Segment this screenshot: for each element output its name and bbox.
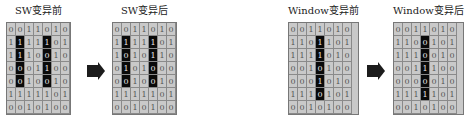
grid-cell: 1 — [7, 36, 16, 49]
grid-cell: 1 — [25, 49, 34, 62]
grid-cell: 1 — [298, 36, 307, 49]
grid-cell: 0 — [167, 62, 176, 75]
grid-cell: 1 — [131, 23, 140, 36]
grid-cell: 0 — [394, 23, 403, 36]
grid-cell: 1 — [412, 62, 421, 75]
grid-cell: 0 — [167, 75, 176, 88]
grid-cell: 1 — [131, 49, 140, 62]
grid-cell: 1 — [122, 62, 131, 75]
grid-cell: 0 — [439, 88, 448, 101]
grid-cell: 0 — [140, 49, 149, 62]
grid-cell: 1 — [403, 36, 412, 49]
grid-cell: 0 — [298, 23, 307, 36]
grid-cell: 0 — [403, 23, 412, 36]
grid-cell: 1 — [316, 49, 325, 62]
panel-window-after: Window变异后 001101011001011110010001110000… — [393, 4, 464, 115]
grid-cell: 1 — [149, 88, 158, 101]
grid-cell: 1 — [43, 62, 52, 75]
grid-cell: 0 — [334, 88, 343, 101]
grid-cell: 0 — [7, 101, 16, 114]
grid-cell: 1 — [325, 101, 334, 114]
grid-cell: 0 — [403, 62, 412, 75]
grid-cell: 1 — [289, 49, 298, 62]
grid-cell: 0 — [158, 36, 167, 49]
grid-cell: 1 — [334, 75, 343, 88]
grid-cell: 0 — [325, 49, 334, 62]
grid-cell: 0 — [394, 62, 403, 75]
grid-cell: 1 — [430, 101, 439, 114]
grid-cell: 1 — [421, 88, 430, 101]
grid-window-before: 0011010110110111110100010100000101011101… — [288, 22, 359, 115]
grid-cell: 1 — [394, 36, 403, 49]
grid-cell: 1 — [25, 88, 34, 101]
caption-window-after: Window变异后 — [393, 4, 464, 18]
grid-cell: 0 — [316, 62, 325, 75]
grid-cell: 1 — [439, 49, 448, 62]
grid-cell: 0 — [16, 75, 25, 88]
grid-cell: 1 — [325, 88, 334, 101]
grid-cell: 0 — [343, 23, 352, 36]
grid-cell: 0 — [158, 101, 167, 114]
grid-cell: 1 — [16, 49, 25, 62]
grid-sw-after: 0011010111110110101100101000001001011111… — [112, 22, 177, 115]
grid-cell: 1 — [34, 62, 43, 75]
grid-cell: 0 — [7, 62, 16, 75]
grid-cell: 1 — [403, 88, 412, 101]
grid-cell: 1 — [430, 36, 439, 49]
grid-cell: 1 — [167, 36, 176, 49]
grid-cell: 0 — [113, 23, 122, 36]
grid-cell: 1 — [325, 62, 334, 75]
grid-cell: 0 — [430, 49, 439, 62]
grid-cell: 0 — [43, 75, 52, 88]
grid-cell: 1 — [448, 88, 457, 101]
grid-cell: 1 — [421, 23, 430, 36]
grid-cell: 1 — [394, 88, 403, 101]
grid-cell: 1 — [7, 49, 16, 62]
grid-cell: 1 — [394, 49, 403, 62]
grid-cell: 0 — [316, 88, 325, 101]
grid-cell: 0 — [16, 23, 25, 36]
grid-cell: 1 — [52, 23, 61, 36]
grid-cell: 0 — [61, 62, 70, 75]
grid-cell: 1 — [140, 36, 149, 49]
grid-cell: 0 — [61, 75, 70, 88]
grid-cell: 0 — [289, 75, 298, 88]
grid-cell: 0 — [343, 62, 352, 75]
grid-cell: 1 — [43, 101, 52, 114]
panel-window-before: Window变异前 001101011011011111010001010000… — [288, 4, 359, 115]
grid-cell: 1 — [289, 36, 298, 49]
grid-cell: 1 — [430, 62, 439, 75]
grid-cell: 0 — [158, 88, 167, 101]
grid-cell: 0 — [113, 101, 122, 114]
grid-cell: 0 — [289, 62, 298, 75]
grid-cell: 0 — [343, 75, 352, 88]
grid-cell: 1 — [421, 62, 430, 75]
grid-cell: 0 — [149, 62, 158, 75]
grid-cell: 1 — [34, 36, 43, 49]
grid-cell: 1 — [16, 36, 25, 49]
grid-cell: 1 — [343, 88, 352, 101]
grid-cell: 0 — [421, 75, 430, 88]
caption-sw-after: SW变异后 — [112, 4, 177, 18]
grid-cell: 0 — [343, 101, 352, 114]
grid-cell: 1 — [167, 88, 176, 101]
grid-cell: 1 — [16, 88, 25, 101]
grid-cell: 0 — [52, 101, 61, 114]
grid-cell: 1 — [412, 101, 421, 114]
panel-sw-before: SW变异前 0011010111110111100100001100001001… — [6, 4, 71, 115]
grid-cell: 1 — [289, 88, 298, 101]
grid-cell: 1 — [316, 23, 325, 36]
grid-cell: 1 — [113, 88, 122, 101]
grid-cell: 0 — [448, 101, 457, 114]
grid-cell: 0 — [34, 75, 43, 88]
grid-cell: 1 — [448, 36, 457, 49]
grid-cell: 0 — [448, 49, 457, 62]
grid-cell: 1 — [149, 49, 158, 62]
grid-cell: 0 — [131, 62, 140, 75]
grid-cell: 0 — [298, 75, 307, 88]
grid-cell: 1 — [334, 49, 343, 62]
grid-cell: 0 — [149, 75, 158, 88]
grid-cell: 0 — [394, 101, 403, 114]
grid-cell: 0 — [43, 23, 52, 36]
grid-cell: 0 — [439, 101, 448, 114]
